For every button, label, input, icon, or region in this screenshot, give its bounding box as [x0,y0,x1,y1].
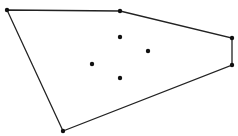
interior-point [146,49,150,53]
hull-vertex-point [5,8,9,12]
convex-hull-diagram [0,0,238,136]
hull-vertex-point [61,129,65,133]
hull-vertex-point [118,9,122,13]
interior-point [90,62,94,66]
hull-vertices [5,8,234,133]
hull-vertex-point [230,63,234,67]
interior-points [90,35,150,80]
interior-point [118,35,122,39]
hull-vertex-point [230,36,234,40]
hull-polygon [7,10,232,131]
interior-point [118,76,122,80]
